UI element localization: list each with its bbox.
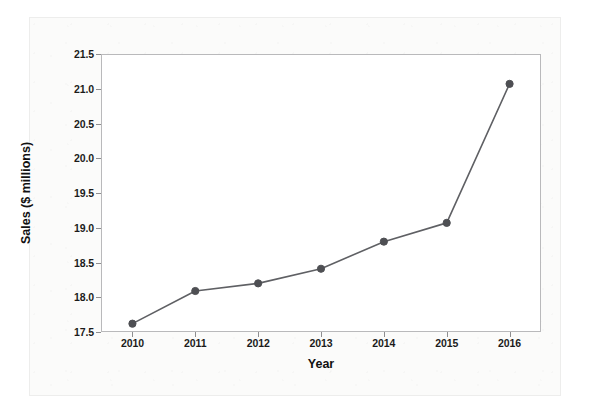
data-point-marker — [129, 320, 136, 327]
y-axis-tick-label: 20.5 — [50, 118, 94, 130]
y-axis-tick-label: 21.0 — [50, 83, 94, 95]
x-axis-tick-label: 2013 — [291, 337, 351, 349]
x-axis-title: Year — [101, 357, 541, 371]
x-axis-tick-label: 2011 — [165, 337, 225, 349]
y-axis-tick-label: 17.5 — [50, 326, 94, 338]
sales-series-line — [132, 84, 509, 324]
data-point-marker — [443, 219, 450, 226]
y-axis-tick-label: 18.0 — [50, 291, 94, 303]
y-axis-tick-label: 19.5 — [50, 187, 94, 199]
x-axis-tick-mark — [258, 332, 259, 337]
line-chart-figure: 17.518.018.519.019.520.020.521.021.5 201… — [0, 0, 591, 408]
x-axis-tick-label: 2016 — [480, 337, 540, 349]
y-axis-tick-label: 21.5 — [50, 48, 94, 60]
series-plot-svg — [101, 54, 541, 332]
x-axis-tick-mark — [321, 332, 322, 337]
data-point-marker — [255, 280, 262, 287]
x-axis-tick-mark — [447, 332, 448, 337]
page-canvas: 17.518.018.519.019.520.020.521.021.5 201… — [0, 0, 591, 408]
x-axis-tick-mark — [510, 332, 511, 337]
data-point-marker — [317, 265, 324, 272]
x-axis-tick-label: 2010 — [102, 337, 162, 349]
y-axis-title: Sales ($ millions) — [19, 142, 33, 244]
x-axis-tick-mark — [195, 332, 196, 337]
y-axis-tick-label: 20.0 — [50, 152, 94, 164]
y-axis-tick-label-group: 17.518.018.519.019.520.020.521.021.5 — [48, 0, 94, 408]
x-axis-tick-mark — [132, 332, 133, 337]
data-point-marker — [192, 287, 199, 294]
x-axis-tick-mark — [384, 332, 385, 337]
data-point-marker — [380, 238, 387, 245]
y-axis-tick-mark — [96, 332, 101, 333]
y-axis-tick-label: 18.5 — [50, 257, 94, 269]
x-axis-tick-label: 2012 — [228, 337, 288, 349]
data-point-marker — [506, 80, 513, 87]
x-axis-tick-label: 2014 — [354, 337, 414, 349]
y-axis-tick-label: 19.0 — [50, 222, 94, 234]
x-axis-tick-label: 2015 — [417, 337, 477, 349]
